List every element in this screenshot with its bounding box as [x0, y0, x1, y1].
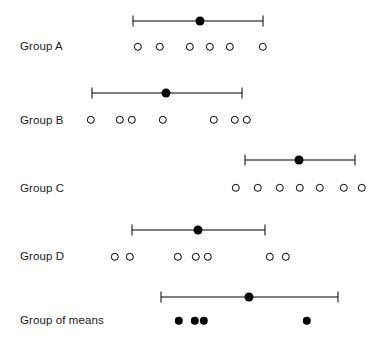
observation-marker: [186, 43, 194, 51]
interval-cap-right: [265, 225, 266, 236]
observation-marker: [134, 43, 142, 51]
observation-marker: [159, 116, 167, 124]
observation-marker: [254, 184, 262, 192]
observation-marker: [128, 116, 136, 124]
observation-marker: [231, 116, 239, 124]
observation-marker: [210, 116, 218, 124]
group-label: Group B: [20, 114, 64, 126]
interval-cap-right: [263, 16, 264, 27]
interval-cap-right: [242, 88, 243, 99]
mean-marker: [194, 226, 203, 235]
mean-marker: [196, 17, 205, 26]
observation-marker: [276, 184, 284, 192]
mean-marker: [245, 293, 254, 302]
mean-point-marker: [191, 317, 199, 325]
interval-cap-left: [245, 155, 246, 166]
observation-marker: [358, 184, 366, 192]
mean-point-marker: [303, 317, 311, 325]
observation-marker: [243, 116, 251, 124]
interval-cap-left: [133, 16, 134, 27]
interval-cap-right: [355, 155, 356, 166]
observation-marker: [192, 253, 200, 261]
observation-marker: [266, 253, 274, 261]
observation-marker: [87, 116, 95, 124]
observation-marker: [156, 43, 164, 51]
interval-cap-left: [92, 88, 93, 99]
group-label: Group C: [20, 182, 64, 194]
observation-marker: [111, 253, 119, 261]
observation-marker: [282, 253, 290, 261]
observation-marker: [174, 253, 182, 261]
interval-cap-left: [161, 292, 162, 303]
observation-marker: [226, 43, 234, 51]
observation-marker: [316, 184, 324, 192]
observation-marker: [296, 184, 304, 192]
observation-marker: [340, 184, 348, 192]
mean-point-marker: [175, 317, 183, 325]
group-label: Group D: [20, 250, 64, 262]
mean-marker: [295, 156, 304, 165]
group-label: Group A: [20, 40, 63, 52]
observation-marker: [206, 43, 214, 51]
group-label: Group of means: [20, 314, 104, 326]
mean-marker: [162, 89, 171, 98]
observation-marker: [126, 253, 134, 261]
observation-marker: [204, 253, 212, 261]
dot-plot-chart: Group AGroup BGroup CGroup DGroup of mea…: [0, 0, 381, 344]
mean-point-marker: [200, 317, 208, 325]
observation-marker: [116, 116, 124, 124]
observation-marker: [259, 43, 267, 51]
observation-marker: [232, 184, 240, 192]
interval-cap-right: [338, 292, 339, 303]
interval-cap-left: [132, 225, 133, 236]
